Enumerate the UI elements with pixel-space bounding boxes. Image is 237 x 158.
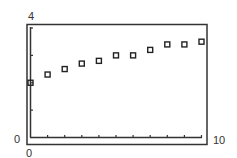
- data-points: [28, 39, 204, 85]
- data-point-marker: [79, 61, 84, 66]
- data-point-marker: [165, 42, 170, 47]
- y-min-label: 0: [14, 133, 20, 145]
- data-point-marker: [96, 58, 101, 63]
- y-max-label: 4: [28, 10, 34, 22]
- window-frame: [27, 25, 207, 145]
- data-point-marker: [148, 47, 153, 52]
- data-point-marker: [131, 53, 136, 58]
- data-point-marker: [199, 39, 204, 44]
- data-point-marker: [114, 53, 119, 58]
- chart-canvas: 4 0 0 10: [0, 0, 237, 158]
- x-max-label: 10: [213, 134, 225, 146]
- scatter-chart: 4 0 0 10: [0, 0, 237, 158]
- data-point-marker: [45, 72, 50, 77]
- data-point-marker: [62, 67, 67, 72]
- x-min-label: 0: [26, 147, 32, 158]
- data-point-marker: [182, 42, 187, 47]
